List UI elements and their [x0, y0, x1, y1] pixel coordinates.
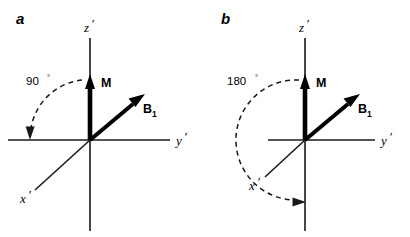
panel-a-vector-b1-subscript: 1	[152, 109, 157, 119]
panel-a-angle-degree-symbol: °	[47, 73, 50, 82]
panel-a-vector-m-label: M	[101, 76, 111, 90]
panel-a-axis-prime-y: ′	[184, 129, 187, 144]
panel-b-axis-prime-x: ′	[257, 174, 260, 189]
panel-a-vector-b1-label: B	[143, 102, 152, 116]
panel-b-vector-b1-label: B	[358, 102, 367, 116]
panel-a-letter: a	[16, 10, 24, 27]
panel-b-angle-value: 180	[227, 75, 246, 87]
panel-b-axis-x-prime	[265, 140, 305, 177]
panel-a-angle-value: 90	[26, 75, 39, 87]
panel-a-axis-label-z: z	[83, 20, 89, 35]
panel-a-vector-m-arrowhead	[85, 74, 95, 89]
panel-b-axis-label-x: x	[248, 178, 255, 193]
nmr-rotating-frame-figure: a y ′ z ′ x ′ M B 1 90 ° b y ′	[0, 0, 410, 237]
panel-a: a y ′ z ′ x ′ M B 1 90 °	[0, 0, 205, 237]
panel-b-vector-b1-shaft	[305, 104, 348, 140]
panel-b-angle-degree-symbol: °	[255, 73, 258, 82]
panel-a-vector-b1-shaft	[90, 104, 133, 140]
panel-b: b y ′ z ′ x ′ M B 1 180 °	[205, 0, 410, 237]
panel-b-rotation-arc-arrowhead	[293, 197, 307, 206]
panel-a-axis-x-prime	[35, 140, 90, 190]
panel-a-axis-label-y: y	[174, 133, 182, 148]
panel-b-axis-label-z: z	[298, 20, 304, 35]
panel-b-axis-label-y: y	[379, 133, 387, 148]
panel-b-vector-m-label: M	[316, 76, 326, 90]
panel-b-axis-prime-y: ′	[389, 129, 392, 144]
panel-a-axis-label-x: x	[19, 191, 26, 206]
panel-a-axis-prime-x: ′	[28, 187, 31, 202]
panel-a-rotation-arc	[31, 80, 82, 128]
panel-b-vector-b1-subscript: 1	[367, 109, 372, 119]
panel-b-letter: b	[221, 10, 230, 27]
panel-b-vector-m-arrowhead	[300, 74, 310, 89]
panel-a-axis-prime-z: ′	[91, 16, 94, 31]
panel-a-rotation-arc-arrowhead	[26, 127, 35, 141]
panel-b-axis-prime-z: ′	[306, 16, 309, 31]
